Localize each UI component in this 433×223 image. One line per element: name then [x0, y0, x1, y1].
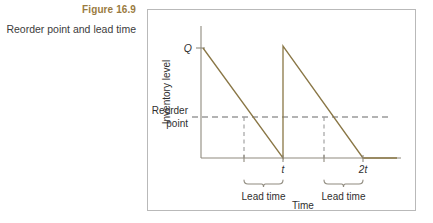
x-tick-label-t: t: [282, 164, 286, 175]
inventory-sawtooth-chart: Q Reorder point t 2t Lead time Lead time…: [148, 10, 415, 210]
figure-frame: Q Reorder point t 2t Lead time Lead time…: [147, 9, 416, 211]
inventory-level-sawtooth: [203, 46, 397, 158]
y-tick-label-q: Q: [184, 42, 192, 54]
figure-caption-block: Figure 16.9 Reorder point and lead time: [0, 0, 140, 36]
lead-time-label-2: Lead time: [322, 191, 366, 202]
x-axis-title: Time: [292, 200, 314, 211]
lead-time-label-1: Lead time: [242, 191, 286, 202]
x-tick-label-2t: 2t: [358, 164, 369, 175]
lead-time-brace-1: [244, 180, 283, 187]
lead-time-brace-2: [324, 180, 363, 187]
figure-number: Figure 16.9: [0, 0, 140, 16]
y-axis-title: Inventory level: [161, 60, 172, 124]
figure-caption-text: Reorder point and lead time: [0, 16, 140, 36]
